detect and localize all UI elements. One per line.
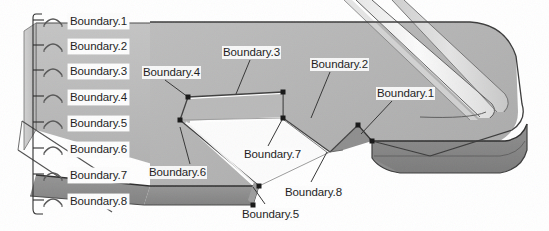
legend-item-3[interactable]: Boundary.3 — [68, 64, 129, 79]
step-vertex-top — [356, 123, 361, 128]
callout-boundary-2[interactable]: Boundary.2 — [310, 58, 369, 71]
legend-item-8[interactable]: Boundary.8 — [68, 194, 129, 209]
callout-boundary-6[interactable]: Boundary.6 — [148, 166, 207, 179]
callout-boundary-8[interactable]: Boundary.8 — [284, 186, 343, 199]
legend-item-1[interactable]: Boundary.1 — [68, 14, 129, 29]
legend-item-2[interactable]: Boundary.2 — [68, 39, 129, 54]
legend-item-6[interactable]: Boundary.6 — [68, 142, 129, 157]
legend-item-4[interactable]: Boundary.4 — [68, 90, 129, 105]
notch-vertex-inner-left — [178, 118, 183, 123]
legend-item-5[interactable]: Boundary.5 — [68, 116, 129, 131]
callout-boundary-7[interactable]: Boundary.7 — [243, 148, 302, 161]
legend-item-7[interactable]: Boundary.7 — [68, 168, 129, 183]
slab-corner-top — [257, 184, 262, 189]
callout-boundary-5[interactable]: Boundary.5 — [241, 208, 300, 221]
notch-vertex-upper-right — [281, 90, 286, 95]
callout-boundary-3[interactable]: Boundary.3 — [222, 46, 281, 59]
figure-canvas: Boundary.1Boundary.2Boundary.3Boundary.4… — [0, 0, 549, 231]
callout-boundary-4[interactable]: Boundary.4 — [142, 66, 201, 79]
notch-vertex-inner-right — [281, 116, 286, 121]
notch-vertex-upper-left — [186, 95, 191, 100]
callout-boundary-1[interactable]: Boundary.1 — [376, 87, 435, 100]
slab-corner-bottom — [251, 203, 256, 208]
step-vertex-bottom — [370, 139, 375, 144]
